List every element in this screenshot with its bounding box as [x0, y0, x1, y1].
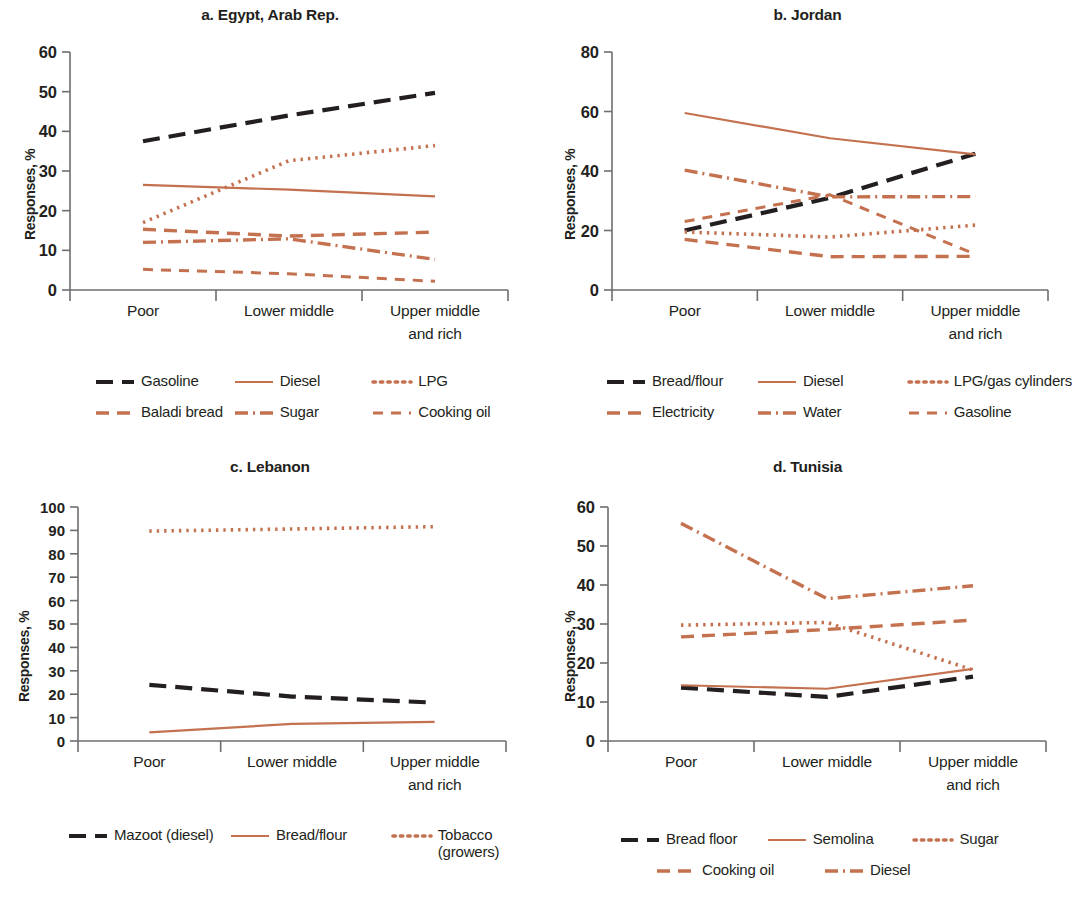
- svg-text:60: 60: [577, 498, 595, 516]
- legend-item-lpg-gas-cylinders: LPG/gas cylinders: [908, 372, 1074, 390]
- svg-text:10: 10: [577, 693, 595, 711]
- legend-item-diesel: Diesel: [824, 861, 992, 879]
- legend-item-water: Water: [757, 403, 908, 421]
- legend-line-swatch: [757, 403, 795, 421]
- legend-item-diesel: Diesel: [757, 372, 908, 390]
- legend-line-swatch: [95, 372, 133, 390]
- svg-text:30: 30: [577, 615, 595, 633]
- panel-lebanon: c. Lebanon Responses, % 0102030405060708…: [0, 452, 540, 897]
- legend-item-label: LPG: [418, 372, 447, 389]
- legend-line-swatch: [908, 403, 946, 421]
- legend-item-cooking-oil: Cooking oil: [656, 861, 824, 879]
- legend-line-swatch: [620, 830, 658, 848]
- legend-item-gasoline: Gasoline: [908, 403, 1074, 421]
- plot-area-tunisia: 0102030405060PoorLower middleUpper middl…: [540, 452, 1075, 807]
- svg-text:20: 20: [577, 654, 595, 672]
- svg-text:and rich: and rich: [949, 325, 1003, 342]
- legend-item-label: Diesel: [870, 861, 910, 878]
- svg-text:50: 50: [48, 616, 65, 633]
- legend-item-sugar: Sugar: [913, 830, 1075, 848]
- legend-item-label: Cooking oil: [418, 403, 490, 420]
- svg-text:Poor: Poor: [669, 302, 701, 319]
- legend-item-label: Semolina: [813, 830, 874, 847]
- legend-line-swatch: [392, 826, 430, 844]
- legend-item-label: Gasoline: [954, 403, 1012, 420]
- legend-line-swatch: [913, 830, 951, 848]
- legend-line-swatch: [908, 372, 946, 390]
- svg-text:50: 50: [39, 83, 57, 101]
- svg-text:and rich: and rich: [946, 776, 1000, 793]
- panel-jordan: b. Jordan Responses, % 020406080PoorLowe…: [540, 0, 1075, 452]
- svg-text:90: 90: [48, 522, 65, 539]
- plot-area-egypt: 0102030405060PoorLower middleUpper middl…: [0, 0, 540, 360]
- svg-text:Upper middle: Upper middle: [930, 302, 1020, 319]
- legend-item-tobacco-growers: Tobacco (growers): [392, 826, 533, 860]
- legend-line-swatch: [95, 403, 133, 421]
- legend-item-label: Tobacco (growers): [438, 826, 500, 860]
- svg-text:0: 0: [48, 281, 57, 299]
- legend-item-label: Baladi bread: [141, 403, 223, 420]
- legend-line-swatch: [372, 403, 410, 421]
- legend-egypt: GasolineDieselLPGBaladi breadSugarCookin…: [95, 372, 525, 434]
- chart-svg-tunisia: 0102030405060PoorLower middleUpper middl…: [540, 452, 1075, 807]
- svg-text:70: 70: [48, 569, 65, 586]
- plot-area-lebanon: 0102030405060708090100PoorLower middleUp…: [0, 452, 540, 807]
- legend-item-baladi-bread: Baladi bread: [95, 403, 234, 421]
- panel-egypt: a. Egypt, Arab Rep. Responses, % 0102030…: [0, 0, 540, 452]
- legend-item-bread-flour: Bread/flour: [606, 372, 757, 390]
- svg-text:60: 60: [48, 593, 65, 610]
- legend-line-swatch: [757, 372, 795, 390]
- svg-text:0: 0: [590, 281, 599, 299]
- legend-item-label: Sugar: [959, 830, 998, 847]
- svg-text:30: 30: [39, 162, 57, 180]
- legend-item-cooking-oil: Cooking oil: [372, 403, 525, 421]
- legend-item-lpg: LPG: [372, 372, 525, 390]
- svg-text:and rich: and rich: [408, 776, 462, 793]
- svg-text:Poor: Poor: [133, 753, 165, 770]
- svg-text:Lower middle: Lower middle: [785, 302, 875, 319]
- svg-text:80: 80: [581, 43, 599, 61]
- svg-text:Upper middle: Upper middle: [390, 753, 480, 770]
- svg-text:60: 60: [39, 43, 57, 61]
- legend-item-label: Mazoot (diesel): [114, 826, 214, 843]
- svg-text:0: 0: [586, 732, 595, 750]
- legend-line-swatch: [606, 372, 644, 390]
- legend-item-label: Cooking oil: [702, 861, 774, 878]
- legend-item-label: Diesel: [280, 372, 320, 389]
- legend-line-swatch: [234, 403, 272, 421]
- svg-text:Lower middle: Lower middle: [247, 753, 337, 770]
- legend-line-swatch: [656, 861, 694, 879]
- svg-text:Lower middle: Lower middle: [782, 753, 872, 770]
- chart-svg-lebanon: 0102030405060708090100PoorLower middleUp…: [0, 452, 540, 807]
- legend-line-swatch: [767, 830, 805, 848]
- legend-line-swatch: [68, 826, 106, 844]
- svg-text:30: 30: [48, 663, 65, 680]
- svg-text:20: 20: [48, 686, 65, 703]
- legend-line-swatch: [372, 372, 410, 390]
- legend-item-electricity: Electricity: [606, 403, 757, 421]
- panel-tunisia: d. Tunisia Responses, % 0102030405060Poo…: [540, 452, 1075, 897]
- svg-text:10: 10: [48, 710, 65, 727]
- legend-item-label: Gasoline: [141, 372, 199, 389]
- legend-line-swatch: [230, 826, 268, 844]
- svg-text:Upper middle: Upper middle: [390, 302, 480, 319]
- chart-svg-jordan: 020406080PoorLower middleUpper middleand…: [540, 0, 1075, 360]
- svg-text:60: 60: [581, 103, 599, 121]
- legend-item-mazoot-diesel: Mazoot (diesel): [68, 826, 230, 860]
- legend-item-label: LPG/gas cylinders: [954, 372, 1072, 389]
- legend-item-bread-flour: Bread/flour: [230, 826, 392, 860]
- legend-item-diesel: Diesel: [234, 372, 373, 390]
- svg-text:40: 40: [581, 162, 599, 180]
- svg-text:40: 40: [48, 639, 65, 656]
- legend-item-semolina: Semolina: [767, 830, 914, 848]
- legend-tunisia: Bread floorSemolinaSugarCooking oilDiese…: [620, 830, 1075, 892]
- legend-jordan: Bread/flourDieselLPG/gas cylindersElectr…: [606, 372, 1074, 434]
- legend-line-swatch: [824, 861, 862, 879]
- svg-text:40: 40: [577, 576, 595, 594]
- legend-item-sugar: Sugar: [234, 403, 373, 421]
- svg-text:Poor: Poor: [665, 753, 697, 770]
- svg-text:50: 50: [577, 537, 595, 555]
- plot-area-jordan: 020406080PoorLower middleUpper middleand…: [540, 0, 1075, 360]
- legend-item-label: Bread/flour: [276, 826, 347, 843]
- svg-text:Upper middle: Upper middle: [928, 753, 1018, 770]
